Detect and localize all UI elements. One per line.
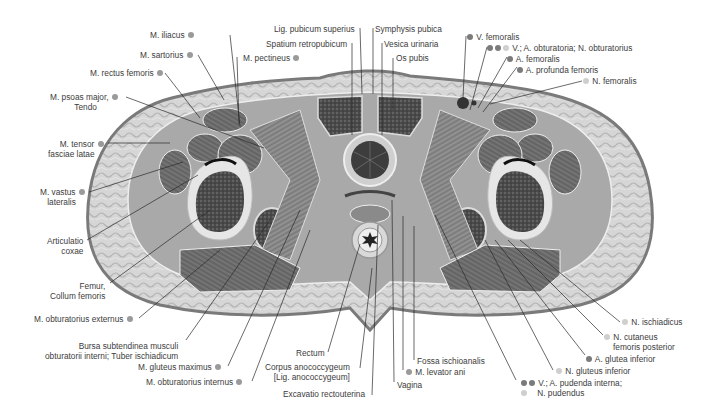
label-vesica-urinaria: Vesica urinaria <box>384 39 438 49</box>
label-text: Tendo <box>74 102 97 112</box>
label-vagina: Vagina <box>397 380 422 390</box>
artery-dot-icon <box>517 67 523 73</box>
label-text: N. cutaneus <box>613 332 657 342</box>
label-m-gluteus-maximus: M. gluteus maximus <box>138 362 222 372</box>
label-obturatoria: V.; A. obturatoria; N. obturatorius <box>486 43 632 53</box>
label-text: femoris posterior <box>613 342 675 352</box>
label-bursa-subtendinea: Bursa subtendinea musculiobturatorii int… <box>45 341 178 361</box>
muscle-dot-icon <box>236 379 242 385</box>
label-text: M. psoas major, <box>50 92 109 102</box>
label-n-femoralis: N. femoralis <box>582 76 637 86</box>
anatomy-figure: M. iliacus M. sartorius M. rectus femori… <box>0 0 719 416</box>
vein-dot-icon <box>487 45 493 51</box>
label-text: N. pudendus <box>537 388 584 398</box>
label-m-vastus-lateralis: M. vastus lateralis <box>40 187 86 207</box>
label-text: Symphysis pubica <box>375 24 442 34</box>
label-rectum: Rectum <box>296 348 325 358</box>
artery-dot-icon <box>507 56 513 62</box>
label-corpus-anococcygeum: Corpus anococcygeum[Lig. anococcygeum] <box>265 362 350 382</box>
label-femur-collum: Femur,Collum femoris <box>50 281 105 301</box>
label-text: Os pubis <box>396 53 429 63</box>
label-text: Femur, <box>80 281 106 291</box>
muscle-dot-icon <box>127 316 133 322</box>
muscle-dot-icon <box>112 94 118 100</box>
label-a-glutea-inferior: A. glutea inferior <box>585 354 655 364</box>
muscle-dot-icon <box>293 55 299 61</box>
label-symphysis-pubica: Symphysis pubica <box>375 24 442 34</box>
label-text: lateralis <box>47 197 76 207</box>
label-text: Vagina <box>397 380 422 390</box>
label-text: M. iliacus <box>150 30 185 40</box>
label-text: Bursa subtendinea musculi <box>79 341 179 351</box>
label-text: M. tensor <box>60 139 95 149</box>
label-text: Articulatio <box>47 236 83 246</box>
label-text: Lig. pubicum superius <box>274 24 355 34</box>
label-fossa-ischioanalis: Fossa ischioanalis <box>417 356 485 366</box>
label-text: V. femoralis <box>476 32 519 42</box>
nerve-dot-icon <box>622 319 628 325</box>
label-m-pectineus: M. pectineus <box>243 53 300 63</box>
label-text: coxae <box>61 246 83 256</box>
label-text: M. sartorius <box>140 50 183 60</box>
label-text: Corpus anococcygeum <box>265 362 350 372</box>
label-text: V.; A. obturatoria; N. obturatorius <box>512 43 632 53</box>
label-text: M. pectineus <box>243 53 290 63</box>
nerve-dot-icon <box>503 45 509 51</box>
label-m-levator-ani: M. levator ani <box>405 367 465 377</box>
label-text: M. levator ani <box>415 367 465 377</box>
label-text: Vesica urinaria <box>384 39 438 49</box>
muscle-dot-icon <box>98 141 104 147</box>
muscle-dot-icon <box>215 364 221 370</box>
label-text: M. gluteus maximus <box>138 362 212 372</box>
nerve-dot-icon <box>556 368 562 374</box>
label-a-femoralis: A. femoralis <box>506 54 560 64</box>
label-text: [Lig. anococcygeum] <box>274 372 350 382</box>
label-text: Spatium retropubicum <box>266 39 347 49</box>
label-text: M. vastus <box>40 187 76 197</box>
vein-dot-icon <box>521 380 527 386</box>
nerve-dot-icon <box>604 334 610 340</box>
muscle-dot-icon <box>79 189 85 195</box>
label-text: A. femoralis <box>516 54 560 64</box>
label-text: Excavatio rectouterina <box>283 389 365 399</box>
label-n-gluteus-inferior: N. gluteus inferior <box>555 366 630 376</box>
label-text: N. gluteus inferior <box>565 366 630 376</box>
artery-dot-icon <box>586 356 592 362</box>
label-text: M. obturatorius externus <box>34 314 123 324</box>
muscle-dot-icon <box>406 369 412 375</box>
label-m-tensor-fasciae-latae: M. tensor fasciae latae <box>48 139 105 159</box>
nerve-dot-icon <box>521 390 527 396</box>
artery-dot-icon <box>529 380 535 386</box>
label-os-pubis: Os pubis <box>396 53 429 63</box>
label-text: N. ischiadicus <box>631 317 682 327</box>
label-text: Fossa ischioanalis <box>417 356 485 366</box>
label-a-profunda-femoris: A. profunda femoris <box>516 65 598 75</box>
muscle-dot-icon <box>187 52 193 58</box>
label-text: A. profunda femoris <box>526 65 598 75</box>
muscle-dot-icon <box>188 32 194 38</box>
label-m-obturatorius-internus: M. obturatorius internus <box>146 377 243 387</box>
label-text: V.; A. pudenda interna; <box>538 378 622 388</box>
label-pudenda-interna: V.; A. pudenda interna; N. pudendus <box>520 378 622 398</box>
label-v-femoralis: V. femoralis <box>466 32 519 42</box>
label-text: obturatorii interni; Tuber ischiadicum <box>45 351 178 361</box>
label-m-sartorius: M. sartorius <box>140 50 194 60</box>
label-m-obturatorius-externus: M. obturatorius externus <box>34 314 134 324</box>
label-m-psoas-major: M. psoas major, Tendo <box>50 92 119 112</box>
nerve-dot-icon <box>583 78 589 84</box>
label-text: N. femoralis <box>592 76 636 86</box>
label-text: M. obturatorius internus <box>146 377 233 387</box>
label-m-iliacus: M. iliacus <box>150 30 195 40</box>
label-n-cutaneus-femoris-posterior: N. cutaneusfemoris posterior <box>603 332 675 352</box>
muscle-dot-icon <box>157 70 163 76</box>
label-text: Collum femoris <box>50 291 105 301</box>
artery-dot-icon <box>495 45 501 51</box>
label-n-ischiadicus: N. ischiadicus <box>621 317 683 327</box>
label-text: A. glutea inferior <box>595 354 655 364</box>
label-m-rectus-femoris: M. rectus femoris <box>90 68 164 78</box>
label-spatium-retropubicum: Spatium retropubicum <box>266 39 347 49</box>
label-articulatio-coxae: Articulatiocoxae <box>47 236 83 256</box>
label-text: Rectum <box>296 348 325 358</box>
vessel-dot-icon <box>467 34 473 40</box>
label-text: M. rectus femoris <box>90 68 154 78</box>
